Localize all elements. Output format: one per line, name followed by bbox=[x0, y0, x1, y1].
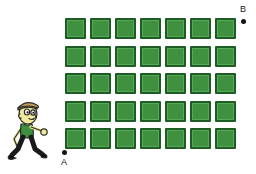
grid-tile[interactable] bbox=[65, 73, 86, 94]
grid-tile[interactable] bbox=[140, 46, 161, 67]
tile-row bbox=[65, 128, 241, 149]
grid-tile[interactable] bbox=[140, 18, 161, 39]
grid-tile[interactable] bbox=[90, 128, 111, 149]
tile-row bbox=[65, 18, 241, 39]
grid-tile[interactable] bbox=[215, 18, 236, 39]
grid-tile[interactable] bbox=[65, 46, 86, 67]
diagram-canvas: A B bbox=[0, 0, 256, 174]
point-a-dot bbox=[62, 150, 67, 155]
grid-tile[interactable] bbox=[140, 101, 161, 122]
grid-tile[interactable] bbox=[90, 101, 111, 122]
grid-tile[interactable] bbox=[190, 73, 211, 94]
grid-tile[interactable] bbox=[165, 73, 186, 94]
grid-tile[interactable] bbox=[190, 46, 211, 67]
grid-tile[interactable] bbox=[115, 128, 136, 149]
grid-tile[interactable] bbox=[165, 46, 186, 67]
grid-tile[interactable] bbox=[65, 128, 86, 149]
grid-tile[interactable] bbox=[215, 128, 236, 149]
grid-tile[interactable] bbox=[190, 128, 211, 149]
grid-tile[interactable] bbox=[140, 73, 161, 94]
grid-tile[interactable] bbox=[165, 101, 186, 122]
tile-row bbox=[65, 101, 241, 122]
grid-tile[interactable] bbox=[115, 101, 136, 122]
walking-boy-icon bbox=[4, 100, 58, 162]
point-b-label: B bbox=[240, 5, 246, 14]
grid-tile[interactable] bbox=[90, 73, 111, 94]
grid-tile[interactable] bbox=[65, 101, 86, 122]
grid-tile[interactable] bbox=[90, 18, 111, 39]
grid-tile[interactable] bbox=[115, 18, 136, 39]
point-b-dot bbox=[241, 19, 246, 24]
grid-tile[interactable] bbox=[190, 18, 211, 39]
grid-tile[interactable] bbox=[215, 73, 236, 94]
grid-tile[interactable] bbox=[140, 128, 161, 149]
grid-tile[interactable] bbox=[65, 18, 86, 39]
grid-tile[interactable] bbox=[165, 18, 186, 39]
grid-tile[interactable] bbox=[165, 128, 186, 149]
tile-row bbox=[65, 73, 241, 94]
tile-grid bbox=[65, 18, 241, 149]
grid-tile[interactable] bbox=[115, 46, 136, 67]
tile-row bbox=[65, 46, 241, 67]
point-a-label: A bbox=[61, 158, 67, 167]
grid-tile[interactable] bbox=[215, 101, 236, 122]
walking-boy-figure bbox=[4, 100, 58, 162]
grid-tile[interactable] bbox=[190, 101, 211, 122]
grid-tile[interactable] bbox=[115, 73, 136, 94]
grid-tile[interactable] bbox=[90, 46, 111, 67]
grid-tile[interactable] bbox=[215, 46, 236, 67]
